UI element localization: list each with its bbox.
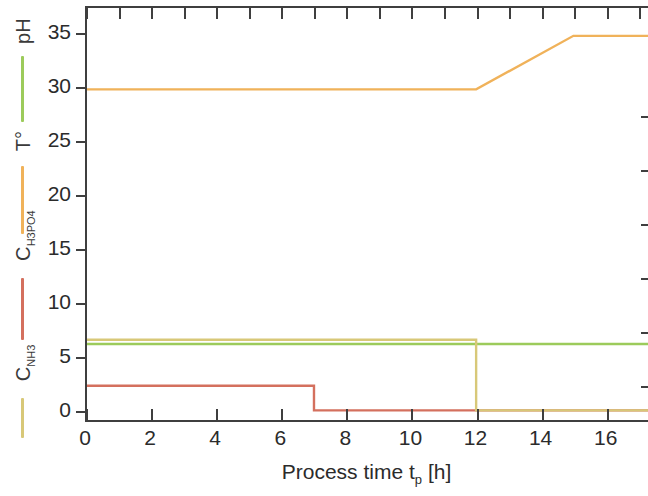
series-line-C_H3PO4 <box>87 386 648 411</box>
x-tick-mark-top <box>542 8 544 19</box>
x-tick-label: 10 <box>399 426 422 450</box>
y-tick-label: 30 <box>48 74 71 98</box>
x-tick-label: 0 <box>79 426 91 450</box>
x-tick-mark-bottom <box>477 409 479 420</box>
y-tick-label: 15 <box>48 236 71 260</box>
y-axis: 05101520253035 <box>0 0 85 428</box>
x-tick-mark-bottom <box>542 409 544 420</box>
secondary-y-tick-mark <box>641 224 648 226</box>
y-tick-mark <box>76 411 85 413</box>
x-tick-mark-top <box>151 8 153 19</box>
y-tick: 5 <box>0 357 85 358</box>
y-tick-mark <box>76 33 85 35</box>
x-tick-label: 2 <box>144 426 156 450</box>
secondary-y-tick-mark <box>641 170 648 172</box>
y-tick-mark <box>76 357 85 359</box>
x-tick-mark-bottom <box>411 409 413 420</box>
x-tick-mark-bottom <box>607 409 609 420</box>
x-tick-mark-bottom <box>346 409 348 420</box>
x-tick-mark-bottom <box>151 409 153 420</box>
secondary-y-tick-mark <box>641 278 648 280</box>
x-tick-mark-top <box>346 8 348 19</box>
x-tick-mark-top <box>509 8 511 19</box>
x-tick-mark-top <box>607 8 609 19</box>
x-tick-mark-top <box>216 8 218 19</box>
x-tick-mark-top <box>379 8 381 19</box>
y-tick: 25 <box>0 141 85 142</box>
y-tick-label: 20 <box>48 182 71 206</box>
plot-area <box>85 6 648 422</box>
x-tick-mark-bottom <box>86 409 88 420</box>
chart-figure: pHT°CH3PO4CNH3 05101520253035 0246810121… <box>0 0 648 496</box>
y-tick: 0 <box>0 411 85 412</box>
x-tick-mark-top <box>281 8 283 19</box>
x-tick-mark-top <box>184 8 186 19</box>
y-tick-mark <box>76 303 85 305</box>
x-tick-label: 4 <box>209 426 221 450</box>
plot-inner <box>87 8 648 420</box>
secondary-y-tick-mark <box>641 386 648 388</box>
x-axis-title-main: Process time t <box>282 460 415 483</box>
x-tick-label: 14 <box>529 426 552 450</box>
x-axis-title: Process time tp [h] <box>85 460 648 487</box>
secondary-y-tick-mark <box>641 332 648 334</box>
y-tick-mark <box>76 249 85 251</box>
x-tick-mark-top <box>86 8 88 19</box>
x-tick-mark-top <box>249 8 251 19</box>
x-tick-mark-top <box>639 8 641 19</box>
y-tick-mark <box>76 141 85 143</box>
secondary-y-tick-mark <box>641 116 648 118</box>
y-tick-label: 35 <box>48 20 71 44</box>
y-tick-mark <box>76 195 85 197</box>
series-line-C_NH3 <box>87 340 648 411</box>
series-line-T <box>87 36 648 90</box>
x-tick-mark-top <box>411 8 413 19</box>
x-tick-mark-top <box>119 8 121 19</box>
y-tick-mark <box>76 87 85 89</box>
x-tick-mark-top <box>477 8 479 19</box>
y-tick: 30 <box>0 87 85 88</box>
y-tick: 20 <box>0 195 85 196</box>
x-tick-label: 8 <box>340 426 352 450</box>
y-tick: 35 <box>0 33 85 34</box>
y-tick: 15 <box>0 249 85 250</box>
x-tick-labels: 0246810121416 <box>85 426 648 458</box>
x-tick-mark-top <box>314 8 316 19</box>
x-tick-mark-top <box>574 8 576 19</box>
x-axis-title-unit: [h] <box>422 460 451 483</box>
x-tick-mark-bottom <box>216 409 218 420</box>
x-tick-mark-top <box>444 8 446 19</box>
x-axis-title-subscript: p <box>415 472 422 487</box>
y-tick-label: 10 <box>48 290 71 314</box>
y-tick-label: 0 <box>59 398 71 422</box>
y-tick-label: 25 <box>48 128 71 152</box>
x-tick-label: 6 <box>274 426 286 450</box>
y-tick-label: 5 <box>59 344 71 368</box>
x-tick-mark-bottom <box>281 409 283 420</box>
series-layer <box>87 8 648 420</box>
x-tick-label: 12 <box>464 426 487 450</box>
x-tick-label: 16 <box>594 426 617 450</box>
y-tick: 10 <box>0 303 85 304</box>
